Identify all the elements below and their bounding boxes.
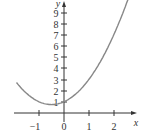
svg-text:7: 7 (54, 30, 59, 41)
svg-text:4: 4 (54, 63, 59, 74)
y-tick-labels: 1 2 3 4 5 6 7 8 9 (54, 8, 59, 108)
curve-line (17, 0, 130, 105)
svg-text:8: 8 (54, 19, 59, 30)
svg-text:3: 3 (54, 75, 59, 86)
x-tick-labels: −1 0 1 2 (30, 121, 117, 132)
svg-text:2: 2 (54, 86, 59, 97)
svg-text:9: 9 (54, 8, 59, 19)
svg-text:1: 1 (87, 121, 92, 132)
svg-text:1: 1 (54, 97, 59, 108)
svg-text:0: 0 (62, 121, 67, 132)
chart: −1 0 1 2 x 1 2 3 4 5 6 7 8 9 y (0, 0, 141, 137)
x-axis-label: x (133, 117, 139, 128)
y-axis-arrow-icon (62, 1, 66, 7)
y-axis-label: y (55, 0, 61, 9)
svg-text:6: 6 (54, 41, 59, 52)
svg-text:2: 2 (112, 121, 117, 132)
svg-text:−1: −1 (30, 121, 41, 132)
x-axis-arrow-icon (131, 111, 137, 115)
svg-text:5: 5 (54, 52, 59, 63)
